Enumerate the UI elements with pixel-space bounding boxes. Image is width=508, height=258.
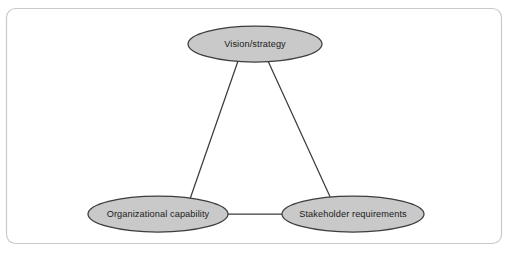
diagram-canvas: Vision/strategy Organizational capabilit…: [0, 0, 508, 258]
node-organizational-capability-label: Organizational capability: [107, 209, 210, 219]
relationship-diagram: Vision/strategy Organizational capabilit…: [0, 0, 508, 258]
node-vision-strategy-label: Vision/strategy: [224, 39, 286, 49]
node-vision-strategy[interactable]: Vision/strategy: [188, 26, 322, 62]
node-organizational-capability[interactable]: Organizational capability: [88, 196, 228, 232]
node-stakeholder-requirements[interactable]: Stakeholder requirements: [282, 196, 424, 232]
node-stakeholder-requirements-label: Stakeholder requirements: [299, 209, 407, 219]
